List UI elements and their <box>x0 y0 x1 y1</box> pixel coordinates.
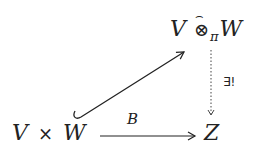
tensor-V: V <box>170 16 186 41</box>
tensor-W: W <box>220 16 243 41</box>
tensor-node: V ⌢ ⊗ πW <box>170 18 242 48</box>
tensor-otimes: ⌢ ⊗ <box>194 21 209 39</box>
target-node: Z <box>204 122 219 144</box>
bilinear-label: B <box>127 112 138 127</box>
embedding-hook-arrow <box>74 52 184 118</box>
product-times: × <box>38 123 53 144</box>
product-V: V <box>12 120 28 145</box>
product-W: W <box>63 120 86 145</box>
product-node: V × W <box>12 122 86 144</box>
tensor-sub-pi: π <box>210 29 219 44</box>
unique-label: ∃! <box>223 76 235 88</box>
tensor-hat: ⌢ <box>195 9 204 22</box>
